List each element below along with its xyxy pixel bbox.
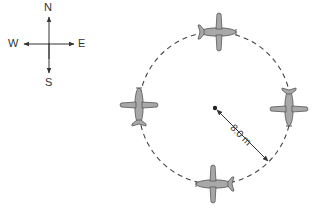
airplane-top-icon xyxy=(198,13,236,51)
compass-north-label: N xyxy=(44,1,52,13)
compass-south-label: S xyxy=(45,76,52,88)
compass-rose xyxy=(24,17,74,73)
circular-motion-diagram xyxy=(0,0,319,217)
airplane-left-icon xyxy=(120,88,158,126)
airplane-right-icon xyxy=(270,88,308,126)
compass-east-label: E xyxy=(78,37,85,49)
compass-west-label: W xyxy=(8,37,18,49)
center-point xyxy=(213,106,217,110)
airplane-bottom-icon xyxy=(196,165,234,203)
